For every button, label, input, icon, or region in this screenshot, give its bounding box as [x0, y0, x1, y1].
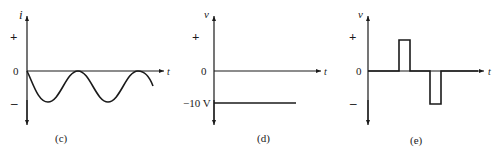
level-label: −10 V [183, 97, 211, 109]
figure-canvas: i + 0 – t (c) v + 0 −10 V t (d) v + 0 – … [0, 0, 501, 159]
caption: (e) [410, 134, 423, 147]
caption: (c) [55, 132, 68, 145]
minus-label: – [349, 95, 357, 110]
zero-label: 0 [356, 65, 362, 77]
panel-e: v + 0 – t (e) [349, 8, 491, 147]
plus-label: + [349, 29, 356, 44]
pulse-waveform [368, 40, 478, 104]
y-axis-label: i [19, 7, 23, 22]
current-waveform [27, 71, 153, 102]
minus-label: – [10, 95, 18, 110]
x-axis-label: t [324, 66, 327, 77]
y-axis-label: v [204, 8, 209, 20]
zero-label: 0 [13, 65, 19, 77]
y-axis-label: v [358, 8, 363, 20]
plus-label: + [10, 29, 17, 44]
panel-c: i + 0 – t (c) [10, 7, 170, 145]
plus-label: + [192, 29, 199, 44]
panel-d: v + 0 −10 V t (d) [183, 8, 327, 145]
x-axis-label: t [488, 66, 491, 77]
x-axis-label: t [167, 66, 170, 77]
zero-label: 0 [201, 65, 207, 77]
caption: (d) [257, 132, 270, 145]
